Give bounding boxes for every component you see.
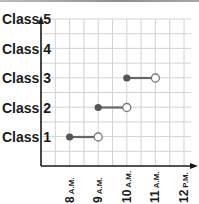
y-label-class-3: Class 3 — [2, 70, 51, 86]
chart: Class 5 Class 4 Class 3 Class 2 Class 1 … — [0, 0, 199, 204]
y-label-class-4: Class 4 — [2, 41, 51, 57]
x-axis-arrow-icon — [190, 163, 198, 169]
closed-dot-icon — [95, 104, 102, 111]
x-tick-label: 9A.M. — [91, 177, 105, 203]
open-dot-icon — [123, 104, 131, 112]
closed-dot-icon — [123, 74, 130, 81]
closed-dot-icon — [66, 133, 73, 140]
grid — [41, 19, 191, 166]
y-axis-labels: Class 5 Class 4 Class 3 Class 2 Class 1 — [2, 11, 51, 145]
y-label-class-5: Class 5 — [2, 11, 51, 27]
y-label-class-1: Class 1 — [2, 129, 51, 145]
x-axis-labels: 8A.M.9A.M.10A.M.11A.M.12P.M. — [63, 171, 191, 203]
x-tick-label: 8A.M. — [63, 177, 77, 203]
open-dot-icon — [94, 133, 102, 141]
x-tick-label: 11A.M. — [148, 171, 162, 203]
y-label-class-2: Class 2 — [2, 100, 51, 116]
x-tick-label: 10A.M. — [120, 171, 134, 203]
open-dot-icon — [151, 74, 159, 82]
x-tick-label: 12P.M. — [177, 172, 191, 203]
